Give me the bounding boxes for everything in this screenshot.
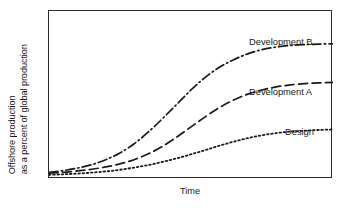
series-label-development-a: Development A: [249, 86, 312, 97]
curve-development-b: [49, 44, 333, 173]
x-axis-label: Time: [48, 186, 332, 196]
series-label-design: Design: [285, 126, 314, 137]
series-label-development-b: Development B: [249, 36, 312, 47]
offshore-production-line-chart: Offshore production as a percent of glob…: [0, 0, 345, 208]
y-axis-label: Offshore production as a percent of glob…: [2, 14, 46, 174]
y-axis-label-line-2: as a percent of global production: [20, 44, 29, 174]
y-axis-label-line-1: Offshore production: [8, 95, 17, 174]
